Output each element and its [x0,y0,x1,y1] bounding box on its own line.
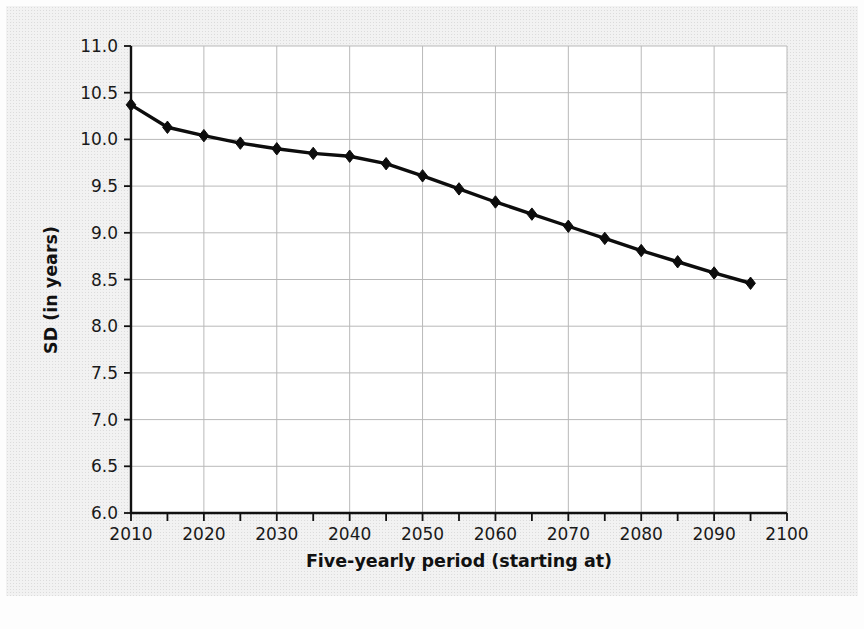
data-point-marker [163,121,173,133]
data-point-marker [527,208,537,220]
data-series-sd [131,105,751,283]
data-point-marker [563,220,573,232]
data-point-marker [709,267,719,279]
data-point-marker [454,183,464,195]
x-tick-label: 2040 [328,524,371,544]
x-tick-label: 2080 [620,524,663,544]
x-tick-label: 2090 [692,524,735,544]
x-tick-label: 2050 [401,524,444,544]
data-point-marker [272,143,282,155]
data-point-marker [381,157,391,169]
data-point-marker [746,277,756,289]
data-point-marker [345,150,355,162]
y-tick-label: 6.0 [91,503,118,523]
x-tick-label: 2060 [474,524,517,544]
data-point-marker [418,170,428,182]
line-chart: 2010202020302040205020602070208020902100… [0,0,864,629]
y-tick-label: 8.5 [91,270,118,290]
y-tick-label: 11.0 [80,36,118,56]
data-point-marker [600,232,610,244]
y-tick-label: 10.5 [80,83,118,103]
data-point-marker [673,256,683,268]
y-tick-label: 8.0 [91,316,118,336]
data-point-markers [126,99,755,290]
x-tick-label: 2070 [547,524,590,544]
x-tick-labels: 2010202020302040205020602070208020902100 [109,524,808,544]
x-tick-label: 2100 [765,524,808,544]
data-point-marker [491,196,501,208]
y-tick-label: 7.5 [91,363,118,383]
data-point-marker [636,244,646,256]
y-axis-title: SD (in years) [41,226,61,354]
x-tick-label: 2030 [255,524,298,544]
figure-container: 2010202020302040205020602070208020902100… [0,0,864,629]
data-point-marker [126,99,136,111]
y-tick-label: 9.0 [91,223,118,243]
data-point-marker [308,147,318,159]
y-tick-label: 7.0 [91,410,118,430]
x-tick-label: 2020 [182,524,225,544]
series-line-sd [131,105,751,283]
data-point-marker [235,137,245,149]
y-tick-label: 10.0 [80,129,118,149]
y-tick-label: 6.5 [91,456,118,476]
x-tick-label: 2010 [109,524,152,544]
y-tick-label: 9.5 [91,176,118,196]
data-point-marker [199,129,209,141]
x-axis-title: Five-yearly period (starting at) [306,551,612,571]
y-tick-labels: 6.06.57.07.58.08.59.09.510.010.511.0 [80,36,118,523]
gridlines [131,46,787,513]
